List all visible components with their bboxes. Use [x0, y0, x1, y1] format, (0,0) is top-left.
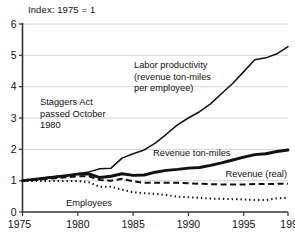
annotation-line: (revenue ton-miles — [134, 72, 211, 82]
x-tick-label: 1995 — [232, 218, 256, 230]
annotation-line: 1980 — [40, 120, 61, 130]
x-tick-label: 1990 — [177, 218, 201, 230]
annotation-revenue-ton-miles: Revenue ton-miles — [153, 148, 231, 158]
annotation-staggers-act: Staggers Actpassed October1980 — [40, 97, 106, 130]
chart-plot-area: 0123456 197519801985199019951999 Stagger… — [0, 0, 295, 247]
annotation-employees: Employees — [66, 198, 112, 208]
y-tick-label: 0 — [11, 206, 17, 218]
y-tick-label: 2 — [11, 143, 17, 155]
x-tick-label: 1999 — [280, 218, 295, 230]
annotations-group: Staggers Actpassed October1980Labor prod… — [40, 60, 287, 208]
annotation-line: Employees — [66, 198, 112, 208]
annotation-line: Revenue (real) — [226, 169, 288, 179]
y-axis-ticks: 0123456 — [11, 18, 23, 218]
chart-container: Index: 1975 = 1 0123456 1975198019851990… — [0, 0, 295, 247]
annotation-line: Revenue ton-miles — [153, 148, 231, 158]
annotation-line: passed October — [40, 109, 106, 119]
y-tick-label: 5 — [11, 49, 17, 61]
annotation-line: Staggers Act — [40, 97, 93, 107]
annotation-line: Labor productivity — [134, 60, 208, 70]
x-tick-label: 1975 — [8, 218, 32, 230]
x-tick-label: 1985 — [121, 218, 145, 230]
annotation-revenue-real: Revenue (real) — [226, 169, 288, 179]
annotation-line: per employee) — [134, 83, 193, 93]
x-tick-label: 1980 — [66, 218, 90, 230]
x-axis-ticks: 197519801985199019951999 — [8, 212, 295, 230]
y-tick-label: 1 — [11, 174, 17, 186]
y-tick-label: 6 — [11, 18, 17, 30]
y-tick-label: 4 — [11, 80, 17, 92]
y-tick-label: 3 — [11, 112, 17, 124]
annotation-labor-productivity: Labor productivity(revenue ton-milesper … — [134, 60, 211, 93]
